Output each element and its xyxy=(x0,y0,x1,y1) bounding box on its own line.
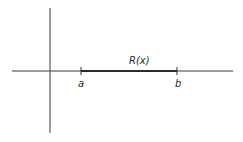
point-b-label: b xyxy=(175,78,181,89)
diagram-canvas: R(x) a b xyxy=(0,0,243,142)
point-a-label: a xyxy=(78,78,84,89)
function-label: R(x) xyxy=(129,55,150,66)
